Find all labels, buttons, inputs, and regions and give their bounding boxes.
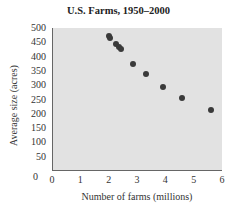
y-tick-label: 450 [22, 37, 46, 47]
data-point [143, 71, 149, 77]
x-axis-label: Number of farms (millions) [52, 191, 222, 202]
x-tick-label: 6 [216, 175, 228, 185]
y-tick-label: 250 [22, 95, 46, 105]
y-tick-label: 0 [14, 172, 38, 182]
y-tick-label: 400 [22, 52, 46, 62]
x-tick-label: 4 [159, 175, 171, 185]
plot-area [52, 28, 222, 171]
x-tick-label: 0 [46, 175, 58, 185]
data-point [208, 107, 214, 113]
x-tick-label: 5 [188, 175, 200, 185]
y-tick-label: 500 [22, 23, 46, 33]
chart-title: U.S. Farms, 1950–2000 [0, 5, 237, 16]
x-tick-label: 1 [74, 175, 86, 185]
data-point [160, 84, 166, 90]
x-tick-label: 3 [131, 175, 143, 185]
y-tick-label: 50 [22, 152, 46, 162]
y-axis-label: Average size (acres) [8, 56, 19, 156]
y-tick-label: 150 [22, 123, 46, 133]
y-tick-label: 300 [22, 80, 46, 90]
y-tick-label: 200 [22, 109, 46, 119]
data-point [130, 61, 136, 67]
y-tick-label: 100 [22, 137, 46, 147]
y-tick-label: 350 [22, 66, 46, 76]
x-tick-label: 2 [103, 175, 115, 185]
